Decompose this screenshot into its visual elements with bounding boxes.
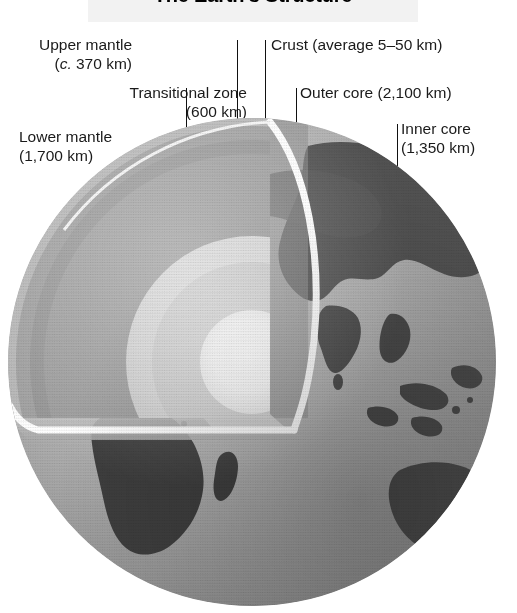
- leader-line-crust: [265, 40, 266, 119]
- label-crust-line1: Crust (average 5–50 km): [271, 36, 442, 55]
- label-upper-mantle-line2: (c. 370 km): [39, 55, 132, 74]
- header-strip: The Earth's Structure: [88, 0, 418, 22]
- label-upper-mantle-line1: Upper mantle: [39, 36, 132, 55]
- label-outer-core: Outer core (2,100 km): [300, 84, 452, 103]
- label-transitional-zone: Transitional zone (600 km): [130, 84, 247, 121]
- page-title: The Earth's Structure: [88, 0, 418, 7]
- globe-sphere: [8, 118, 496, 606]
- label-transitional-zone-line1: Transitional zone: [130, 84, 247, 103]
- label-crust: Crust (average 5–50 km): [271, 36, 442, 55]
- earth-cutaway-globe: [8, 118, 496, 606]
- globe-shading-overlay: [8, 118, 496, 606]
- label-outer-core-line1: Outer core (2,100 km): [300, 84, 452, 103]
- label-upper-mantle: Upper mantle (c. 370 km): [39, 36, 132, 73]
